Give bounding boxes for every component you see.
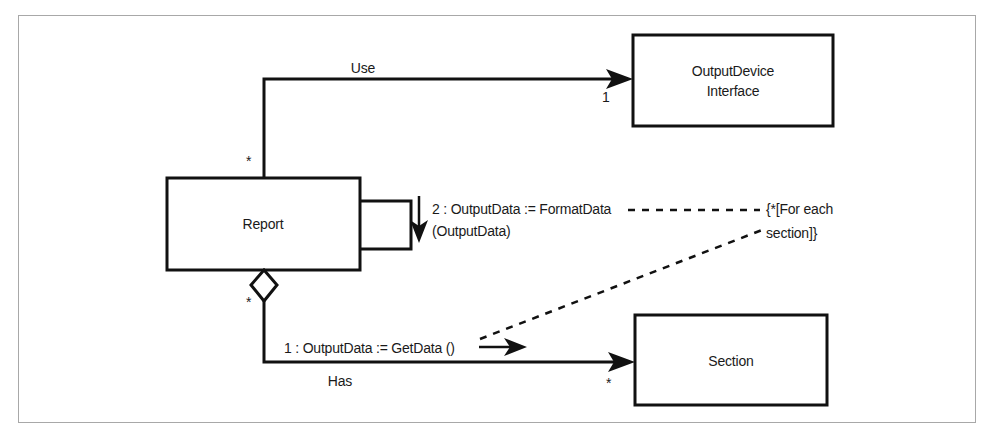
class-box-output-device-interface-rect[interactable]	[633, 35, 833, 126]
association-has-target-multiplicity: *	[606, 375, 612, 391]
message-format-data: 2 : OutputData := FormatData (OutputData…	[410, 196, 612, 243]
class-box-report[interactable]: Report	[167, 178, 360, 270]
association-use: Use * 1	[246, 60, 633, 178]
aggregation-diamond-shape	[251, 270, 277, 301]
message-get-data-label-line1: 1 : OutputData := GetData ()	[284, 340, 455, 356]
uml-canvas: Use * 1 OutputDevice Interface Report 2 …	[0, 0, 993, 438]
message-format-data-label-line2: (OutputData)	[432, 223, 511, 239]
class-box-report-name-line1: Report	[243, 216, 284, 232]
self-association-report-line	[360, 201, 411, 249]
message-get-data: 1 : OutputData := GetData ()	[284, 338, 527, 356]
class-box-output-device-interface-name-line2: Interface	[707, 83, 760, 99]
constraint-note-line2: section]}	[766, 225, 818, 241]
self-association-report	[360, 201, 411, 249]
aggregation-diamond-report-has	[251, 270, 277, 301]
constraint-note-line1: {*[For each	[766, 201, 833, 217]
class-box-section-name-line1: Section	[708, 353, 753, 369]
association-use-target-multiplicity: 1	[602, 89, 610, 105]
class-box-output-device-interface-name-line1: OutputDevice	[692, 63, 775, 79]
uml-diagram-root: Use * 1 OutputDevice Interface Report 2 …	[0, 0, 993, 438]
association-use-label: Use	[351, 60, 376, 76]
association-use-source-multiplicity: *	[246, 153, 252, 169]
association-has-label: Has	[328, 373, 352, 389]
message-format-data-label-line1: 2 : OutputData := FormatData	[432, 201, 612, 217]
association-use-line	[264, 79, 628, 178]
constraint-note-for-each-section: {*[For each section]}	[766, 201, 833, 241]
class-box-section[interactable]: Section	[635, 315, 827, 405]
association-has-source-multiplicity: *	[246, 294, 252, 310]
class-box-output-device-interface[interactable]: OutputDevice Interface	[633, 35, 833, 126]
